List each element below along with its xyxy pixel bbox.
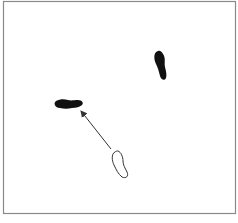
filled-footprint-left xyxy=(55,99,83,108)
filled-footprint-top-right xyxy=(154,51,166,80)
diagram-frame xyxy=(4,2,236,214)
diagram-canvas xyxy=(0,0,238,223)
outlined-footprint xyxy=(112,151,127,178)
footprint-diagram xyxy=(0,0,238,223)
step-arrow xyxy=(81,111,111,149)
